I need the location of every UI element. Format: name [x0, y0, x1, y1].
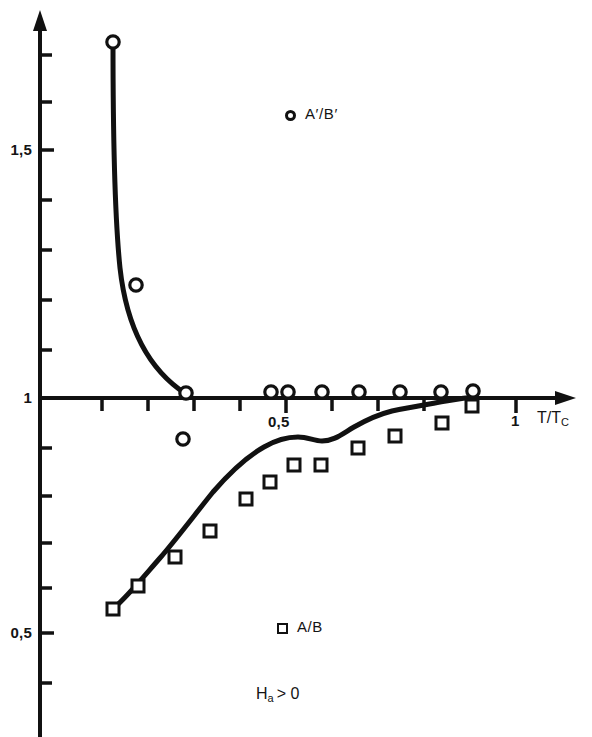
legend-a-prime-b-prime: A′/B′: [285, 105, 338, 122]
data-point-square: [169, 551, 181, 563]
x-axis-tick-label-1: 1: [511, 412, 520, 429]
legend-a-b: A/B: [277, 618, 323, 635]
y-axis-tick-label-0-5: 0,5: [0, 624, 32, 641]
data-point-circle: [180, 387, 192, 399]
data-point-square: [352, 442, 364, 454]
data-point-square: [204, 525, 216, 537]
data-point-circle: [265, 386, 277, 398]
x-axis-title-subscript: C: [561, 416, 569, 428]
markers-a-prime-b-prime: [107, 36, 479, 399]
figure-canvas: 1,5 1 0,5 0,5 1 T/TC A′/B′ A/B Ha> 0: [0, 0, 592, 737]
y-axis-tick-label-1-5: 1,5: [0, 141, 32, 158]
x-axis-tick-label-0-5: 0,5: [268, 413, 289, 430]
legend-a-b-label: A/B: [297, 618, 323, 635]
x-axis-title-base: T/T: [537, 409, 561, 426]
data-point-square: [107, 603, 119, 615]
data-point-circle: [107, 36, 119, 48]
data-point-square: [288, 459, 300, 471]
data-point-circle: [394, 386, 406, 398]
x-axis-arrowhead: [555, 391, 576, 405]
annotation-rest: > 0: [277, 685, 300, 702]
legend-a-prime-b-prime-label: A′/B′: [305, 105, 338, 122]
data-point-square: [240, 493, 252, 505]
data-point-circle: [435, 386, 447, 398]
annotation-subscript: a: [268, 692, 274, 704]
data-point-square: [389, 430, 401, 442]
x-axis-title: T/TC: [537, 409, 569, 428]
data-point-circle-outlier: [177, 433, 189, 445]
square-marker-icon: [277, 623, 288, 634]
y-axis-tick-label-1: 1: [0, 389, 32, 406]
markers-a-b: [107, 400, 478, 615]
data-point-square: [264, 476, 276, 488]
annotation-field-condition: Ha> 0: [256, 685, 299, 704]
data-point-circle: [316, 386, 328, 398]
annotation-base: H: [256, 685, 268, 702]
curve-a-b: [113, 397, 472, 609]
curve-a-prime-b-prime: [113, 42, 186, 394]
data-point-circle: [130, 279, 142, 291]
data-point-square: [436, 417, 448, 429]
data-point-square: [466, 400, 478, 412]
y-axis-ticks: [40, 55, 54, 683]
data-point-circle: [467, 385, 479, 397]
data-point-square: [315, 459, 327, 471]
circle-marker-icon: [285, 110, 296, 121]
y-axis-arrowhead: [33, 10, 47, 31]
data-point-circle: [353, 386, 365, 398]
data-point-square: [132, 580, 144, 592]
data-point-circle: [282, 386, 294, 398]
